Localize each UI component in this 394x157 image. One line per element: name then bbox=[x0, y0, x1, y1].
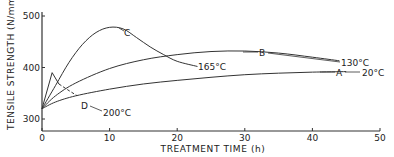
label-D: D bbox=[81, 101, 88, 111]
x-tick-label: 10 bbox=[104, 133, 116, 143]
x-tick-label: 40 bbox=[307, 133, 319, 143]
label-C-temp: 165°C bbox=[198, 62, 226, 72]
series-D-line bbox=[42, 73, 59, 109]
x-tick-label: 30 bbox=[239, 133, 251, 143]
x-tick-label: 50 bbox=[374, 133, 386, 143]
tensile-strength-chart: 01020304050 300400500 TENSILE STRENGTH (… bbox=[0, 0, 394, 157]
series-D-dashed bbox=[59, 84, 77, 96]
series-lines bbox=[42, 27, 346, 109]
x-axis-label: TREATMENT TIME (h) bbox=[160, 144, 266, 154]
y-tick-label: 500 bbox=[23, 11, 40, 21]
y-axis-label: TENSILE STRENGTH (N/mm²) bbox=[6, 0, 16, 131]
y-tick-label: 400 bbox=[23, 63, 40, 73]
x-tick-label: 20 bbox=[171, 133, 183, 143]
label-B-temp: 130°C bbox=[341, 58, 369, 68]
x-tick-label: 0 bbox=[39, 133, 45, 143]
label-A-temp: 20°C bbox=[362, 68, 384, 78]
label-B: B bbox=[259, 48, 265, 58]
label-C: C bbox=[124, 28, 130, 38]
label-A: A bbox=[336, 68, 343, 78]
label-D-temp: 200°C bbox=[103, 108, 131, 118]
y-tick-label: 300 bbox=[23, 114, 40, 124]
series-C-line bbox=[42, 27, 197, 109]
x-ticks: 01020304050 bbox=[39, 128, 386, 143]
